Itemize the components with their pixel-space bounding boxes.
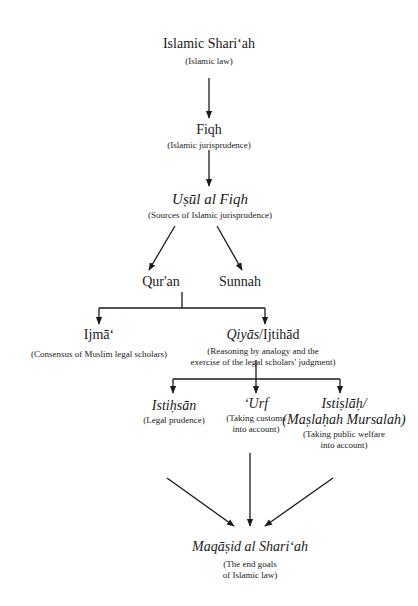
connector-lines: [0, 0, 418, 606]
arrow-left-to-maqasid: [167, 478, 234, 526]
node-islamic-shariah: Islamic Shari‘ah (Islamic law): [163, 36, 255, 67]
node-title: Ijmā‘: [31, 327, 167, 343]
node-subtitle: (Consensus of Muslim legal scholars): [31, 349, 167, 360]
node-istislah: Istiṣlāḥ/ (Maṣlaḥah Mursalah) (Taking pu…: [282, 396, 405, 451]
node-title: ‘Urf: [226, 396, 286, 412]
node-title: Fiqh: [167, 122, 251, 138]
node-sunnah: Sunnah: [219, 274, 261, 290]
node-subtitle-line2: into account): [226, 424, 286, 435]
node-subtitle: (Sources of Islamic jurisprudence): [148, 210, 272, 221]
node-title-italic: Qiyās: [226, 327, 259, 342]
node-title: Maqāṣid al Shari‘ah: [192, 539, 308, 555]
node-subtitle-line2: of Islamic law): [192, 570, 308, 581]
node-title: Istiḥsān: [143, 398, 205, 414]
node-fiqh: Fiqh (Islamic jurisprudence): [167, 122, 251, 151]
node-quran: Qur'an: [142, 274, 180, 290]
node-subtitle: (Islamic law): [163, 56, 255, 67]
node-title: Qur'an: [142, 274, 180, 290]
node-title-line2: (Maṣlaḥah Mursalah): [282, 412, 405, 428]
node-usul-al-fiqh: Uṣūl al Fiqh (Sources of Islamic jurispr…: [148, 191, 272, 221]
node-title: Sunnah: [219, 274, 261, 290]
node-subtitle-line2: into account): [282, 440, 405, 451]
node-subtitle-line1: (Taking customs: [226, 413, 286, 424]
arrow-usul-to-sunnah: [217, 226, 242, 270]
node-subtitle: (Legal prudence): [143, 415, 205, 426]
node-title-line1: Istiṣlāḥ/: [282, 396, 405, 412]
node-title: Islamic Shari‘ah: [163, 36, 255, 52]
node-qiyas-ijtihad: Qiyās/Ijtihād (Reasoning by analogy and …: [191, 327, 336, 368]
node-subtitle-line1: (Taking public welfare: [282, 429, 405, 440]
node-title-roman: /Ijtihād: [259, 327, 299, 342]
node-subtitle-line1: (The end goals: [192, 559, 308, 570]
node-title: Uṣūl al Fiqh: [148, 191, 272, 207]
node-subtitle-line2: exercise of the legal scholars' judgment…: [191, 357, 336, 368]
node-maqasid-al-shariah: Maqāṣid al Shari‘ah (The end goals of Is…: [192, 539, 308, 581]
node-istihsan: Istiḥsān (Legal prudence): [143, 398, 205, 426]
node-subtitle-line1: (Reasoning by analogy and the: [191, 346, 336, 357]
node-subtitle: (Islamic jurisprudence): [167, 140, 251, 151]
node-urf: ‘Urf (Taking customs into account): [226, 396, 286, 435]
arrow-usul-to-quran: [149, 226, 175, 270]
arrow-right-to-maqasid: [265, 478, 333, 526]
node-ijma: Ijmā‘ (Consensus of Muslim legal scholar…: [31, 327, 167, 360]
